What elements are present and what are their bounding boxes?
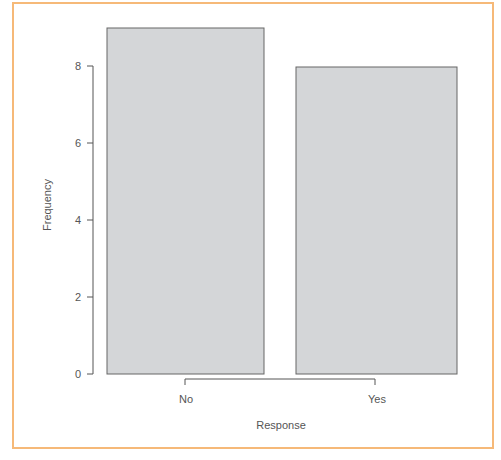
y-tick-label: 2 [75, 291, 81, 303]
bar-no [107, 28, 264, 374]
x-axis: No Yes [179, 379, 386, 405]
y-ticks: 0 2 4 6 8 [75, 60, 93, 380]
x-tick-label-no: No [179, 393, 193, 405]
y-axis-label: Frequency [41, 179, 53, 231]
y-tick-label: 0 [75, 368, 81, 380]
x-axis-label: Response [256, 419, 306, 431]
bar-chart: 0 2 4 6 8 Frequency No Yes Response [0, 0, 501, 460]
bar-yes [296, 67, 457, 374]
x-tick-label-yes: Yes [368, 393, 386, 405]
y-tick-label: 4 [75, 214, 81, 226]
y-tick-label: 8 [75, 60, 81, 72]
y-tick-label: 6 [75, 137, 81, 149]
